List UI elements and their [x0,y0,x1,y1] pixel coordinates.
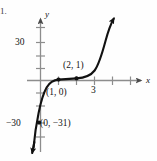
point-label-0-negative-31: (0, −31) [40,119,71,129]
x-tick-label-3: 3 [91,86,96,96]
y-tick-label-30: 30 [15,38,25,48]
point-marker-2-1 [74,76,78,80]
point-label-2-1: (2, 1) [63,61,84,71]
x-axis-label: x [146,76,150,85]
point-label-1-0: (1, 0) [46,88,67,98]
figure-container: 1. y x 30 −30 3 (2, 1) (1, 0) (0, −31) [0,0,157,161]
figure-number-label: 1. [0,7,7,16]
y-tick-label-negative-30: −30 [6,119,21,129]
y-axis-label: y [45,10,49,19]
graph-plot [0,0,157,161]
point-marker-1-0 [56,78,60,82]
